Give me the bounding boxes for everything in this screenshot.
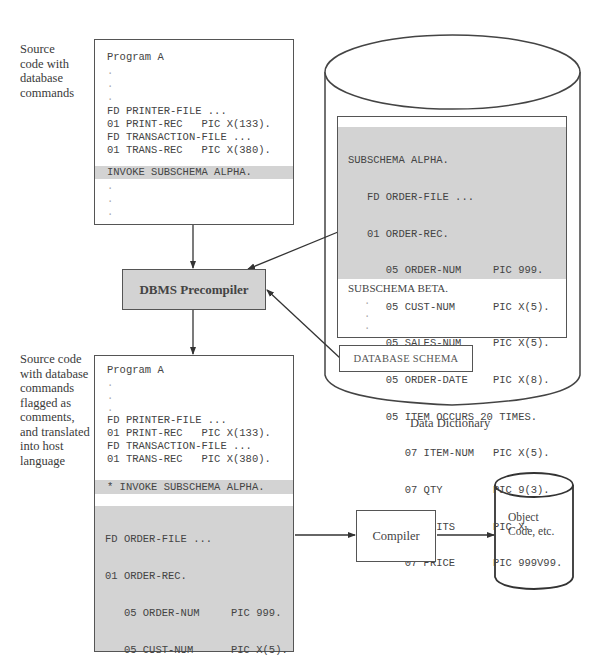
dbms-precompiler-box: DBMS Precompiler (122, 269, 266, 310)
code-line: FD TRANSACTION-FILE ... (107, 131, 252, 144)
arrow-subschema-to-precompiler (248, 232, 338, 269)
code-line: 07 QTY PIC 9(3). (348, 484, 562, 496)
caption-line: commands (20, 86, 74, 101)
caption-line: into host (20, 439, 90, 454)
caption-line: code with (20, 57, 74, 72)
precompiler-label: DBMS Precompiler (139, 282, 248, 298)
caption-line: database (20, 71, 74, 86)
object-code-line: Code, etc. (508, 525, 554, 539)
source-program-box: Program A . . . FD PRINTER-FILE ... 01 P… (94, 39, 294, 225)
translated-program-box: Program A . . . FD PRINTER-FILE ... 01 P… (94, 355, 294, 652)
code-line: SUBSCHEMA ALPHA. (348, 154, 562, 166)
caption-line: with database (20, 367, 90, 382)
ellipsis-dot: . (364, 295, 370, 308)
code-line: FD PRINTER-FILE ... (107, 105, 227, 118)
subschema-beta: SUBSCHEMA BETA. (348, 282, 448, 295)
database-schema-label: DATABASE SCHEMA (354, 353, 459, 364)
caption-line: language (20, 454, 90, 469)
program-title: Program A (107, 364, 164, 377)
object-code-line: Object (508, 511, 554, 525)
expanded-record-block: FD ORDER-FILE ... 01 ORDER-REC. 05 ORDER… (95, 506, 293, 651)
ellipsis-dot: . (107, 91, 113, 104)
subschema-alpha-block: SUBSCHEMA ALPHA. FD ORDER-FILE ... 01 OR… (338, 127, 566, 279)
caption-line: flagged as (20, 396, 90, 411)
subschema-box: SUBSCHEMA ALPHA. FD ORDER-FILE ... 01 OR… (337, 116, 567, 338)
code-line: 05 CUST-NUM PIC X(5). (105, 644, 300, 656)
caption-line: Source (20, 42, 74, 57)
code-line: 01 PRINT-REC PIC X(133). (107, 427, 271, 440)
code-line: 05 ORDER-NUM PIC 999. (105, 607, 300, 619)
code-line: 01 PRINT-REC PIC X(133). (107, 118, 271, 131)
commented-invoke-statement: * INVOKE SUBSCHEMA ALPHA. (107, 481, 265, 494)
caption-line: and translated (20, 425, 90, 440)
code-line: 05 ORDER-DATE PIC X(8). (348, 374, 562, 386)
caption-translated-source: Source code with database commands flagg… (20, 352, 90, 468)
caption-line: commands (20, 381, 90, 396)
code-line: 05 CUST-NUM PIC X(5). (348, 301, 562, 313)
arrow-schema-to-precompiler (267, 290, 340, 358)
compiler-label: Compiler (372, 529, 419, 544)
compiler-box: Compiler (356, 510, 436, 562)
data-dictionary-label: Data Dictionary (410, 416, 490, 431)
code-line: 01 ORDER-REC. (348, 228, 562, 240)
ellipsis-dot: . (107, 78, 113, 91)
caption-line: comments, (20, 410, 90, 425)
caption-line: Source code (20, 352, 90, 367)
code-line: 01 TRANS-REC PIC X(380). (107, 144, 271, 157)
object-code-label: Object Code, etc. (508, 511, 554, 538)
code-line: 01 ORDER-REC. (105, 570, 300, 582)
code-line: FD TRANSACTION-FILE ... (107, 440, 252, 453)
ellipsis-dot: . (364, 320, 370, 333)
code-line: FD ORDER-FILE ... (348, 191, 562, 203)
code-line: 07 ITEM-NUM PIC X(5). (348, 447, 562, 459)
database-schema-box: DATABASE SCHEMA (339, 345, 473, 372)
code-line: FD PRINTER-FILE ... (107, 414, 227, 427)
expanded-record-code: FD ORDER-FILE ... 01 ORDER-REC. 05 ORDER… (105, 508, 300, 664)
ellipsis-dot: . (107, 377, 113, 390)
ellipsis-dot: . (107, 180, 113, 193)
invoke-statement: INVOKE SUBSCHEMA ALPHA. (107, 166, 252, 179)
code-line: 05 ORDER-NUM PIC 999. (348, 264, 562, 276)
code-line: FD ORDER-FILE ... (105, 533, 300, 545)
code-line: 01 TRANS-REC PIC X(380). (107, 453, 271, 466)
ellipsis-dot: . (107, 65, 113, 78)
ellipsis-dot: . (107, 206, 113, 219)
commented-invoke-highlight: * INVOKE SUBSCHEMA ALPHA. (95, 480, 293, 494)
ellipsis-dot: . (107, 193, 113, 206)
caption-source-with-db-commands: Source code with database commands (20, 42, 74, 100)
program-title: Program A (107, 51, 164, 64)
invoke-highlight: INVOKE SUBSCHEMA ALPHA. (95, 166, 293, 179)
